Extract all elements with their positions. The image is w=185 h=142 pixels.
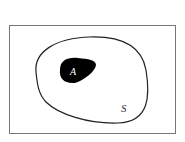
venn-diagram: A S xyxy=(0,0,185,142)
event-a-label: A xyxy=(69,66,77,77)
universe-frame xyxy=(10,26,176,134)
set-s-label: S xyxy=(121,102,127,114)
